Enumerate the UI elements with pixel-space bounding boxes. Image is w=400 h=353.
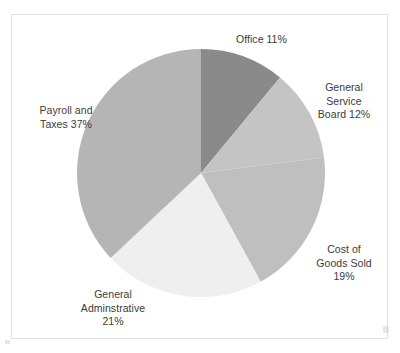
- pie-slice-group: [77, 49, 325, 297]
- scan-artifact-bottom-right: [383, 326, 389, 333]
- slice-label-office: Office 11%: [236, 33, 346, 47]
- slice-label-general-service-board: General Service Board 12%: [296, 81, 392, 122]
- slice-label-cost-of-goods-sold: Cost of Goods Sold 19%: [296, 243, 392, 284]
- slice-label-general-adminstrative: General Adminstrative 21%: [38, 288, 188, 329]
- slice-label-payroll-and-taxes: Payroll and Taxes 37%: [14, 104, 118, 131]
- pie-chart-plot-area: Office 11% General Service Board 12% Cos…: [0, 0, 400, 353]
- scan-artifact-bottom-left: [5, 340, 10, 344]
